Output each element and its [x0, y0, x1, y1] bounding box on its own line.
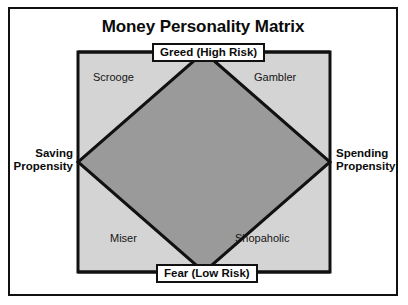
axis-label-saving-propensity: Saving Propensity [14, 147, 73, 173]
axis-label-greed-box: Greed (High Risk) [152, 43, 265, 62]
matrix-diagram: Scrooge Gambler Miser Shopaholic Saving … [0, 0, 408, 305]
axis-label-spending-line1: Spending [336, 147, 395, 160]
quadrant-label-miser: Miser [110, 232, 137, 244]
axis-label-saving-line1: Saving [14, 147, 73, 160]
axis-label-saving-line2: Propensity [14, 160, 73, 173]
axis-label-spending-line2: Propensity [336, 160, 395, 173]
axis-label-fear-box: Fear (Low Risk) [156, 264, 258, 283]
quadrant-label-scrooge: Scrooge [93, 71, 134, 83]
quadrant-label-gambler: Gambler [254, 71, 296, 83]
axis-label-spending-propensity: Spending Propensity [336, 147, 395, 173]
quadrant-label-shopaholic: Shopaholic [235, 232, 289, 244]
